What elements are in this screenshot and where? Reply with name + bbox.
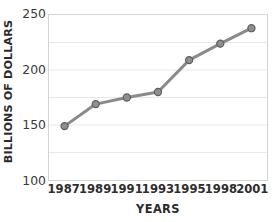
y-axis-tick-label: 100 (16, 175, 46, 187)
y-axis-tick-labels: 100150200250 (14, 0, 46, 182)
data-point-marker (92, 101, 99, 108)
x-axis-tick-label: 2001 (236, 184, 268, 196)
line-chart-figure: BILLIONS OF DOLLARS 100150200250 1987198… (0, 0, 276, 222)
data-point-marker (186, 57, 193, 64)
y-axis-tick-label: 250 (16, 8, 46, 20)
data-point-marker (61, 123, 68, 130)
x-axis-tick-label: 1991 (110, 184, 142, 196)
gridlines (49, 43, 267, 153)
plot-area (48, 14, 268, 181)
x-axis-tick-label: 1995 (173, 184, 205, 196)
data-point-marker (217, 40, 224, 47)
plot-svg (49, 15, 267, 180)
x-axis-tick-label: 1998 (205, 184, 237, 196)
y-axis-tick-label: 200 (16, 64, 46, 76)
data-point-marker (248, 25, 255, 32)
data-point-marker (123, 94, 130, 101)
x-axis-tick-label: 1993 (142, 184, 174, 196)
x-axis-tick-labels: 1987198919911993199519982001 (48, 184, 268, 200)
y-axis-tick-label: 150 (16, 119, 46, 131)
data-point-marker (154, 88, 161, 95)
x-axis-tick-label: 1989 (79, 184, 111, 196)
x-axis-tick-label: 1987 (48, 184, 80, 196)
x-axis-title: YEARS (48, 202, 268, 216)
